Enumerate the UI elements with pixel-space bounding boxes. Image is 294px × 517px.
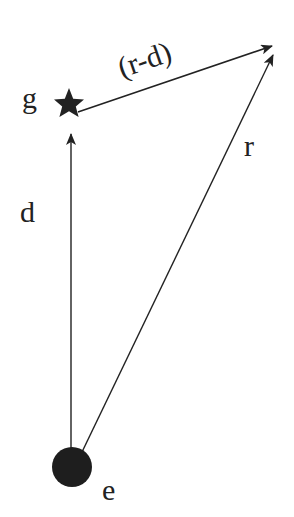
star-icon	[54, 88, 84, 117]
label-d: d	[20, 195, 35, 228]
label-r-minus-d: (r-d)	[113, 35, 175, 85]
label-e: e	[102, 473, 115, 506]
arrow-r	[82, 55, 273, 452]
arrow-r-minus-d	[78, 46, 272, 112]
vector-diagram: g d r e (r-d)	[0, 0, 294, 517]
label-g: g	[22, 81, 37, 114]
label-r: r	[244, 129, 254, 162]
circle-icon	[52, 447, 92, 487]
